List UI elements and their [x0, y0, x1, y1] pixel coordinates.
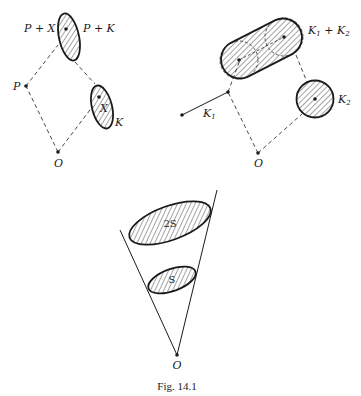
- point-o: [56, 150, 60, 154]
- label-k1-plus-k2: K1 + K2: [307, 24, 350, 38]
- figure-canvas: P + X P + K P X K O: [0, 0, 361, 396]
- point-k1-start: [180, 113, 184, 117]
- left-diagram: P + X P + K P X K O: [12, 11, 124, 170]
- label-s: S: [169, 274, 176, 285]
- label-p: P: [12, 80, 21, 93]
- point-p: [24, 84, 28, 88]
- label-k1: K1: [202, 107, 216, 121]
- label-k2: K2: [337, 93, 351, 107]
- point-o: [175, 353, 179, 357]
- label-p-plus-k: P + K: [82, 22, 116, 35]
- set-p-plus-k: [54, 11, 84, 62]
- label-o: O: [254, 157, 263, 170]
- label-k: K: [114, 116, 124, 129]
- figure-caption: Fig. 14.1: [157, 380, 196, 392]
- point-k1-center: [237, 58, 241, 62]
- label-x: X: [99, 102, 109, 115]
- point-k1-end: [226, 90, 230, 94]
- point-k2-center: [313, 97, 317, 101]
- label-p-plus-x: P + X: [23, 22, 57, 35]
- label-o: O: [54, 157, 63, 170]
- label-2s: 2S: [163, 218, 176, 229]
- set-k1-plus-k2: [220, 18, 303, 79]
- right-diagram: K1 + K2 K1 K2 O: [180, 18, 351, 170]
- cone-diagram: 2S S O: [120, 190, 217, 372]
- point-o: [256, 151, 260, 155]
- point-k1-plus-k2-center: [282, 35, 286, 39]
- dashed-parallelogram: [26, 45, 95, 152]
- label-o: O: [172, 359, 181, 372]
- point-p-plus-x: [64, 27, 68, 31]
- point-x: [97, 95, 101, 99]
